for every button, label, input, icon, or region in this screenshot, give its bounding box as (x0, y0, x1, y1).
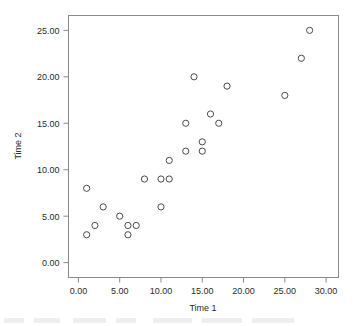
y-tick-label: 20.00 (37, 72, 60, 82)
data-point (158, 176, 164, 182)
data-point (84, 185, 90, 191)
plot-frame (69, 16, 339, 278)
data-point (191, 74, 197, 80)
data-point (183, 120, 189, 126)
plot-canvas: 0.005.0010.0015.0020.0025.0030.00 0.005.… (0, 0, 358, 326)
y-tick-label: 25.00 (37, 26, 60, 36)
page-footer-text-fragment (4, 318, 334, 323)
data-point (100, 204, 106, 210)
data-point (125, 222, 131, 228)
data-point (216, 120, 222, 126)
x-tick-label: 15.00 (191, 286, 214, 296)
x-tick-label: 30.00 (315, 286, 338, 296)
data-point (84, 232, 90, 238)
data-point (166, 176, 172, 182)
x-tick-label: 25.00 (274, 286, 297, 296)
data-point (207, 111, 213, 117)
data-point (298, 55, 304, 61)
data-point (307, 27, 313, 33)
y-tick-label: 5.00 (42, 212, 60, 222)
y-axis-tick-labels: 0.005.0010.0015.0020.0025.00 (37, 26, 60, 268)
x-axis-tick-labels: 0.005.0010.0015.0020.0025.0030.00 (70, 286, 338, 296)
data-point (199, 139, 205, 145)
data-point (199, 148, 205, 154)
data-point (92, 222, 98, 228)
y-tick-label: 10.00 (37, 165, 60, 175)
y-axis-ticks (64, 30, 69, 262)
data-point (117, 213, 123, 219)
y-tick-label: 15.00 (37, 119, 60, 129)
data-point (166, 157, 172, 163)
data-point (282, 92, 288, 98)
scatter-plot-figure: 0.005.0010.0015.0020.0025.0030.00 0.005.… (0, 0, 358, 326)
data-point (158, 204, 164, 210)
x-tick-label: 0.00 (70, 286, 88, 296)
x-tick-label: 20.00 (232, 286, 255, 296)
x-axis-ticks (78, 278, 326, 283)
data-point (125, 232, 131, 238)
data-point (141, 176, 147, 182)
data-point (183, 148, 189, 154)
x-tick-label: 10.00 (150, 286, 173, 296)
x-tick-label: 5.00 (111, 286, 129, 296)
x-axis-title: Time 1 (189, 303, 216, 313)
data-point (133, 222, 139, 228)
y-tick-label: 0.00 (42, 258, 60, 268)
data-point-markers (84, 27, 313, 238)
y-axis-title: Time 2 (13, 132, 23, 159)
data-point (224, 83, 230, 89)
